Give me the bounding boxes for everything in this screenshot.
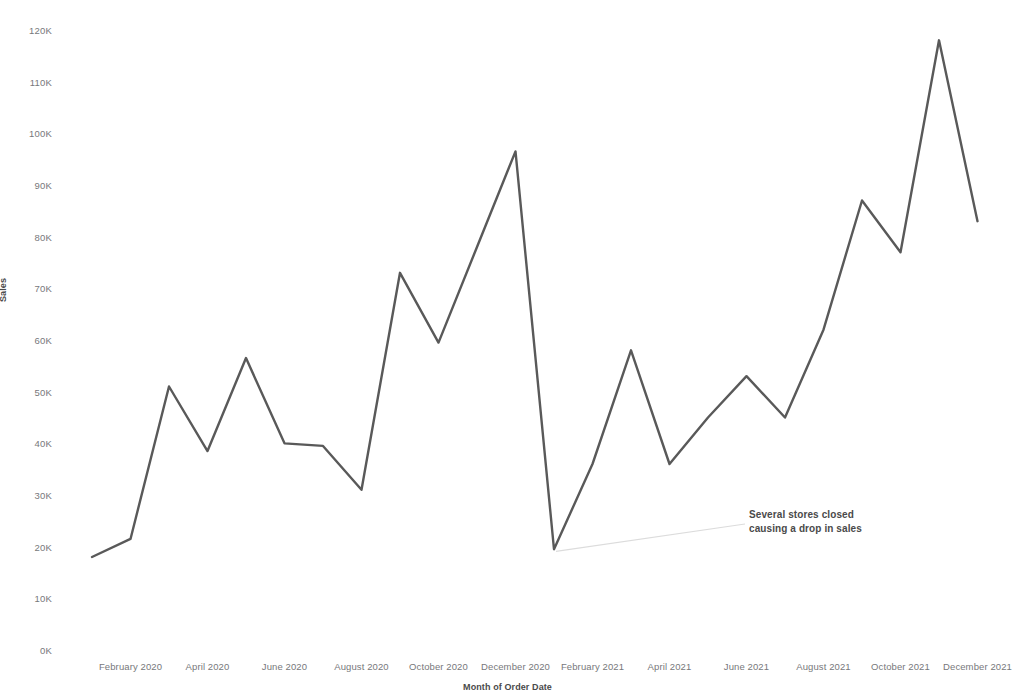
y-axis-tick-60K: 60K [0,335,52,346]
y-axis-tick-50K: 50K [0,386,52,397]
x-axis-tick-february-2020: February 2020 [99,661,162,672]
annotation-line-1: Several stores closed [749,508,862,522]
y-axis-tick-110K: 110K [0,76,52,87]
y-axis-tick-80K: 80K [0,231,52,242]
x-axis-tick-june-2021: June 2021 [724,661,769,672]
x-axis-tick-august-2020: August 2020 [334,661,388,672]
x-axis-tick-october-2020: October 2020 [409,661,468,672]
y-axis-tick-90K: 90K [0,180,52,191]
sales-line-series[interactable] [92,40,978,557]
x-axis-tick-october-2021: October 2021 [871,661,930,672]
annotation-line-2: causing a drop in sales [749,522,862,536]
line-chart: Sales 0K10K20K30K40K50K60K70K80K90K100K1… [0,0,1015,695]
y-axis-tick-100K: 100K [0,128,52,139]
y-axis-tick-70K: 70K [0,283,52,294]
y-axis-tick-120K: 120K [0,25,52,36]
y-axis-tick-20K: 20K [0,541,52,552]
x-axis-tick-august-2021: August 2021 [796,661,850,672]
x-axis-tick-april-2021: April 2021 [648,661,692,672]
x-axis-title: Month of Order Date [0,682,1015,692]
plot-area [0,0,1015,695]
y-axis-tick-30K: 30K [0,490,52,501]
y-axis-tick-0K: 0K [0,645,52,656]
annotation-label: Several stores closed causing a drop in … [749,508,862,536]
y-axis-tick-10K: 10K [0,593,52,604]
x-axis-tick-april-2020: April 2020 [186,661,230,672]
annotation-leader-line [556,524,745,551]
y-axis-tick-40K: 40K [0,438,52,449]
x-axis-tick-june-2020: June 2020 [262,661,307,672]
x-axis-tick-december-2021: December 2021 [943,661,1012,672]
x-axis-tick-february-2021: February 2021 [561,661,624,672]
x-axis-tick-december-2020: December 2020 [481,661,550,672]
